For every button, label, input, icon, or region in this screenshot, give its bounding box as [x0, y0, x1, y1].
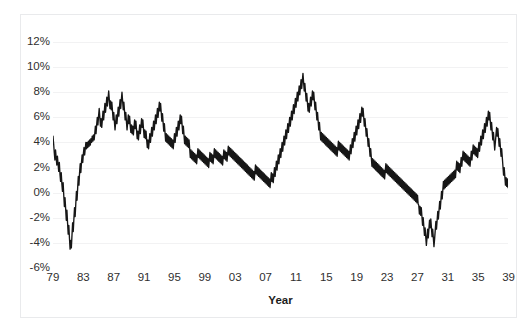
x-axis-tick-label: 31 [441, 272, 454, 284]
x-axis-tick-label: 07 [259, 272, 272, 284]
y-axis: 12%10%8%6%4%2%0%-2%-4%-6% [4, 0, 50, 334]
x-axis-tick-label: 23 [381, 272, 394, 284]
y-axis-tick-label: 10% [6, 61, 50, 73]
x-axis-tick-label: 91 [138, 272, 151, 284]
x-axis-title: Year [53, 294, 508, 306]
series-plot [53, 42, 508, 268]
y-axis-tick-label: 0% [6, 187, 50, 199]
x-axis: 798387919599030711151923273135394347 [53, 272, 508, 290]
y-axis-tick-label: -4% [6, 237, 50, 249]
y-axis-tick-label: 6% [6, 112, 50, 124]
x-axis-tick-label: 15 [320, 272, 333, 284]
x-axis-tick-label: 87 [107, 272, 120, 284]
y-axis-tick-label: 4% [6, 137, 50, 149]
x-axis-tick-label: 99 [198, 272, 211, 284]
y-axis-tick-label: -2% [6, 212, 50, 224]
y-axis-tick-label: -6% [6, 262, 50, 274]
x-axis-tick-label: 19 [350, 272, 363, 284]
x-axis-tick-label: 03 [229, 272, 242, 284]
y-axis-tick-label: 2% [6, 162, 50, 174]
x-axis-tick-label: 39 [502, 272, 515, 284]
x-axis-tick-label: 79 [47, 272, 60, 284]
y-axis-tick-label: 8% [6, 86, 50, 98]
x-axis-tick-label: 35 [472, 272, 485, 284]
x-axis-tick-label: 95 [168, 272, 181, 284]
x-axis-tick-label: 27 [411, 272, 424, 284]
y-axis-tick-label: 12% [6, 36, 50, 48]
x-axis-tick-label: 11 [290, 272, 302, 284]
x-axis-tick-label: 83 [77, 272, 90, 284]
data-series-line [53, 73, 508, 249]
chart-container: 12%10%8%6%4%2%0%-2%-4%-6% 79838791959903… [0, 0, 524, 334]
plot-area [53, 42, 508, 268]
